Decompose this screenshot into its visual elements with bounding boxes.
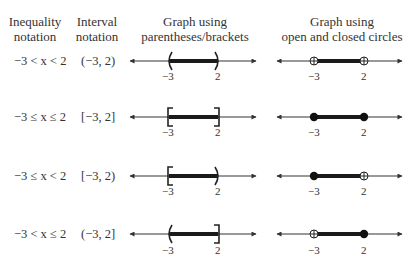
label-minus3: −3: [308, 70, 320, 82]
brackets-graph-row-1: −3 2: [130, 52, 256, 82]
label-2: 2: [361, 70, 367, 82]
brackets-graph-row-2: −3 2: [130, 108, 256, 138]
closed-circle-icon: [360, 230, 368, 238]
label-2: 2: [361, 126, 367, 138]
label-2: 2: [215, 70, 221, 82]
closed-circle-icon: [310, 172, 318, 180]
label-2: 2: [215, 244, 221, 256]
brackets-graph-row-3: −3 2: [130, 167, 256, 197]
label-minus3: −3: [162, 126, 174, 138]
label-minus3: −3: [308, 244, 320, 256]
open-circle-icon: [360, 172, 368, 180]
label-minus3: −3: [162, 185, 174, 197]
open-circle-icon: [310, 57, 318, 65]
label-minus3: −3: [308, 185, 320, 197]
label-2: 2: [361, 185, 367, 197]
open-circle-icon: [360, 57, 368, 65]
circles-graph-row-1: −3 2: [277, 57, 402, 82]
circles-graph-row-3: −3 2: [277, 172, 402, 197]
label-minus3: −3: [308, 126, 320, 138]
closed-circle-icon: [310, 113, 318, 121]
circles-graph-row-2: −3 2: [277, 113, 402, 138]
open-circle-icon: [310, 230, 318, 238]
label-2: 2: [361, 244, 367, 256]
circles-graph-row-4: −3 2: [277, 230, 402, 256]
label-2: 2: [215, 185, 221, 197]
label-2: 2: [215, 126, 221, 138]
number-line-graphs: −3 2 −3 2 −3 2 −3 2: [0, 0, 416, 265]
closed-circle-icon: [360, 113, 368, 121]
brackets-graph-row-4: −3 2: [130, 225, 256, 256]
label-minus3: −3: [162, 70, 174, 82]
label-minus3: −3: [162, 244, 174, 256]
